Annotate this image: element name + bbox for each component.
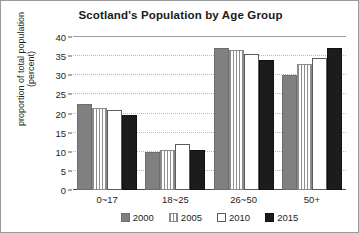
chart-figure: Scotland's Population by Age Group propo… [0, 0, 359, 233]
chart-title: Scotland's Population by Age Group [1, 9, 359, 21]
y-axis-tick-mark [68, 56, 72, 57]
bar-group [278, 37, 346, 190]
bar-017-2015[interactable] [122, 115, 137, 190]
y-axis-tick-label: 0 [61, 185, 66, 196]
x-axis-tick-labels: 0~1718~2526~5050+ [73, 194, 346, 205]
bar-50-2010[interactable] [312, 58, 327, 190]
legend-item-2010[interactable]: 2010 [217, 212, 250, 223]
y-axis-tick-mark [68, 190, 72, 191]
bar-1825-2000[interactable] [145, 152, 160, 190]
y-axis-tick-label: 25 [55, 89, 66, 100]
bar-017-2005[interactable] [92, 108, 107, 190]
legend-item-2015[interactable]: 2015 [265, 212, 298, 223]
x-axis-tick-label: 0~17 [73, 194, 141, 205]
bar-2650-2000[interactable] [214, 48, 229, 190]
y-axis-tick-label: 40 [55, 32, 66, 43]
y-axis-tick-mark [68, 94, 72, 95]
bar-017-2000[interactable] [77, 104, 92, 190]
x-axis-tick-label: 26~50 [210, 194, 278, 205]
legend-swatch-2005 [169, 213, 178, 222]
y-axis-tick-mark [68, 75, 72, 76]
legend-swatch-2000 [121, 213, 130, 222]
y-axis-tick-mark [68, 132, 72, 133]
legend-label-2000: 2000 [133, 212, 154, 223]
bar-2650-2005[interactable] [229, 50, 244, 190]
y-axis-label-line-2: (percent) [26, 51, 36, 87]
bar-groups [73, 37, 346, 190]
bar-group [73, 37, 141, 190]
bar-50-2015[interactable] [327, 48, 342, 190]
bar-1825-2005[interactable] [160, 150, 175, 190]
y-axis-tick-label: 20 [55, 108, 66, 119]
legend-label-2015: 2015 [277, 212, 298, 223]
bar-2650-2015[interactable] [259, 60, 274, 190]
y-axis-tick-label: 30 [55, 70, 66, 81]
legend-swatch-2015 [265, 213, 274, 222]
bar-2650-2010[interactable] [244, 54, 259, 190]
bar-017-2010[interactable] [107, 110, 122, 190]
legend-item-2000[interactable]: 2000 [121, 212, 154, 223]
y-axis-label-line-1: proportion of total population [16, 12, 26, 126]
y-axis-tick-mark [68, 113, 72, 114]
y-axis-tick-label: 5 [61, 165, 66, 176]
y-axis-label: proportion of total population (percent) [6, 0, 46, 139]
legend-item-2005[interactable]: 2005 [169, 212, 202, 223]
bar-50-2000[interactable] [282, 75, 297, 190]
legend-label-2005: 2005 [181, 212, 202, 223]
x-axis-tick-label: 18~25 [141, 194, 209, 205]
legend-swatch-2010 [217, 213, 226, 222]
bar-1825-2010[interactable] [175, 144, 190, 190]
bar-group [210, 37, 278, 190]
x-axis-tick-label: 50+ [278, 194, 346, 205]
y-axis-tick-mark [68, 170, 72, 171]
bar-50-2005[interactable] [297, 64, 312, 190]
legend-label-2010: 2010 [229, 212, 250, 223]
bar-group [141, 37, 209, 190]
y-axis-tick-mark [68, 37, 72, 38]
chart-legend: 2000200520102015 [73, 212, 346, 223]
y-axis-tick-label: 10 [55, 146, 66, 157]
y-axis-tick-label: 15 [55, 127, 66, 138]
bar-1825-2015[interactable] [190, 150, 205, 190]
y-axis-tick-mark [68, 151, 72, 152]
y-axis-tick-label: 35 [55, 51, 66, 62]
plot-area: 0510152025303540 [73, 37, 346, 190]
